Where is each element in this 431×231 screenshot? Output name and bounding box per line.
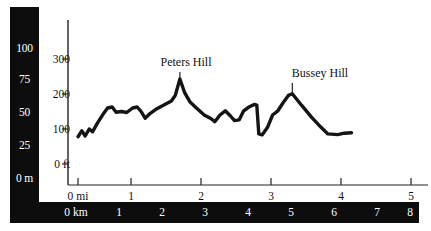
y-axis-ticks: [62, 59, 68, 164]
x-axis-ticks: [78, 178, 411, 185]
elevation-profile-line: [78, 79, 352, 137]
bussey-hill-annotation: Bussey Hill: [292, 67, 348, 80]
plot-area: [0, 0, 431, 231]
elevation-profile-figure: 100 75 50 25 0 m 300 200 100 0 ft 0 mi 1…: [0, 0, 431, 231]
peters-hill-annotation: Peters Hill: [161, 56, 212, 69]
